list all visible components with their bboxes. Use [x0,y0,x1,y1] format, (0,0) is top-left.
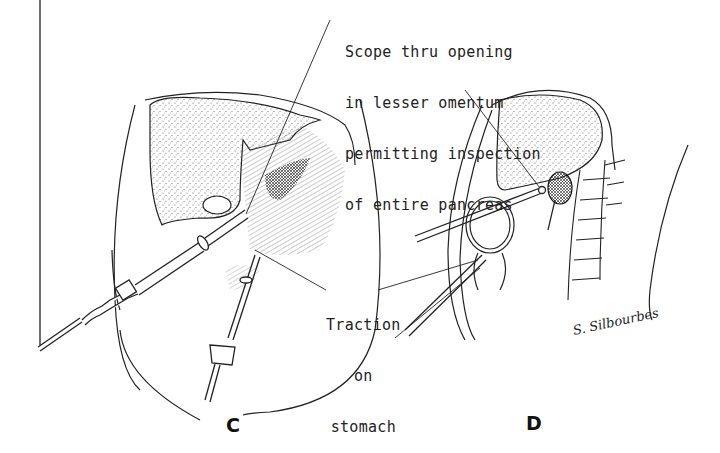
traction-annotation-line-1: Traction [326,317,401,334]
scope-annotation-line-1: Scope thru opening [345,44,541,61]
traction-annotation-line-3: stomach [326,419,401,436]
scope-annotation-line-4: of entire pancreas [345,197,541,214]
scope-annotation-line-3: permitting inspection [345,146,541,163]
traction-annotation: Traction on stomach [326,283,401,453]
spine [568,160,625,300]
panel-label-d: D [526,412,542,434]
panel-label-c: C [226,414,240,436]
traction-annotation-line-2: on [326,368,401,385]
scope-annotation: Scope thru opening in lesser omentum per… [345,10,541,231]
pancreas [548,172,572,204]
scope-annotation-line-2: in lesser omentum [345,95,541,112]
